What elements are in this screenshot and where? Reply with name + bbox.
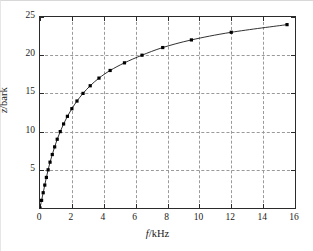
- x-axis-title: f/kHz: [1, 229, 313, 240]
- data-point-marker: [140, 54, 143, 57]
- x-axis-unit: /kHz: [149, 228, 169, 239]
- page-background: 0246810121416 510152025 f/kHz z/bark: [0, 0, 313, 251]
- y-axis-title: z/bark: [0, 87, 10, 113]
- data-point-marker: [48, 161, 51, 164]
- data-point-marker: [75, 99, 78, 102]
- x-tick-label: 8: [164, 213, 169, 223]
- x-tick-label: 4: [100, 213, 105, 223]
- data-point-marker: [53, 145, 56, 148]
- y-tick-label: 25: [15, 11, 35, 21]
- data-point-marker: [109, 69, 112, 72]
- data-point-marker: [40, 206, 42, 208]
- plot-area: [39, 16, 296, 209]
- x-axis-tick: [295, 17, 296, 21]
- data-point-marker: [81, 92, 84, 95]
- x-tick-label: 10: [194, 213, 204, 223]
- data-point-marker: [42, 191, 45, 194]
- data-point-marker: [285, 23, 288, 26]
- data-point-marker: [59, 130, 62, 133]
- y-axis-symbol: z: [0, 109, 9, 113]
- x-tick-label: 2: [69, 213, 74, 223]
- data-curve: [40, 17, 295, 208]
- y-axis-unit: /bark: [0, 87, 9, 109]
- data-point-marker: [190, 38, 193, 41]
- data-point-marker: [66, 115, 69, 118]
- x-tick-label: 14: [257, 213, 267, 223]
- data-point-marker: [45, 176, 48, 179]
- curve-line: [40, 25, 287, 208]
- y-tick-label: 20: [15, 49, 35, 59]
- data-point-marker: [43, 183, 46, 186]
- data-point-marker: [230, 31, 233, 34]
- data-point-marker: [89, 84, 92, 87]
- data-point-marker: [51, 153, 54, 156]
- data-point-marker: [47, 168, 50, 171]
- x-axis-tick: [295, 204, 296, 208]
- bark-scale-chart: 0246810121416 510152025 f/kHz z/bark: [1, 1, 313, 251]
- x-tick-label: 16: [289, 213, 299, 223]
- data-point-marker: [56, 138, 59, 141]
- y-tick-label: 5: [15, 164, 35, 174]
- data-point-marker: [123, 61, 126, 64]
- data-point-marker: [62, 122, 65, 125]
- y-tick-label: 15: [15, 88, 35, 98]
- data-point-marker: [161, 46, 164, 49]
- y-tick-label: 10: [15, 126, 35, 136]
- x-tick-label: 6: [132, 213, 137, 223]
- data-point-marker: [40, 199, 43, 202]
- x-tick-label: 0: [37, 213, 42, 223]
- data-point-marker: [97, 77, 100, 80]
- data-point-marker: [70, 107, 73, 110]
- x-tick-label: 12: [226, 213, 236, 223]
